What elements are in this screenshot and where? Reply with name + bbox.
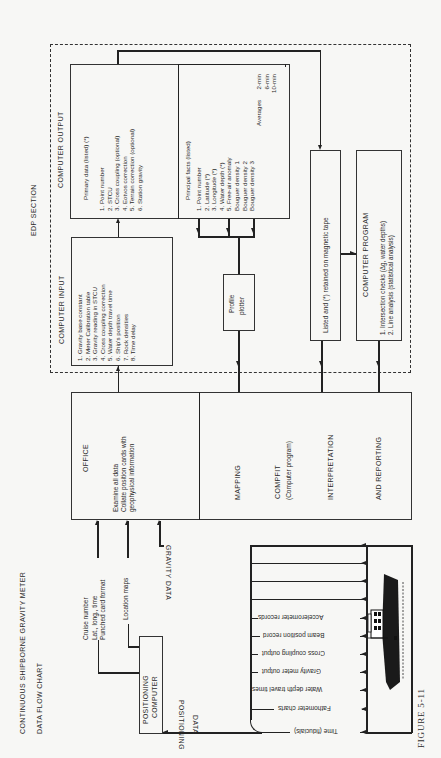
profile-plotter-line2: plotter bbox=[238, 297, 246, 315]
arrow-left-icon bbox=[361, 670, 366, 674]
locmaps-to-office bbox=[127, 521, 129, 558]
positioning-computer-line2: COMPUTER bbox=[151, 676, 159, 718]
record-cross-coupling: Cross coupling output bbox=[250, 651, 366, 659]
arrow-up-icon bbox=[157, 520, 161, 525]
average-6min: 6-min bbox=[263, 74, 271, 98]
principal-item: Bouguer density 3 bbox=[248, 157, 256, 211]
input-item: 1. Gravity base constant bbox=[76, 284, 84, 361]
sensor-line bbox=[250, 599, 366, 600]
record-line bbox=[250, 654, 258, 655]
record-line bbox=[250, 709, 274, 710]
positioning-input: Punched card format bbox=[99, 580, 108, 640]
arrow-left-icon bbox=[361, 597, 366, 601]
averages-bracket-top bbox=[178, 64, 240, 65]
computer-output-heading: COMPUTER OUTPUT bbox=[57, 111, 65, 188]
arrow-up-icon bbox=[125, 520, 129, 525]
arrow-left-icon bbox=[361, 707, 366, 711]
input-item: 7. Rock densities bbox=[122, 284, 130, 361]
program-to-office bbox=[378, 341, 380, 392]
record-line bbox=[250, 618, 258, 619]
primary-item: 6. Station gravity bbox=[136, 129, 144, 211]
arrow-left-icon bbox=[361, 634, 366, 638]
input-item: 8. Time delay bbox=[129, 284, 137, 361]
arrow-left-icon bbox=[361, 561, 366, 565]
arrow-down-icon bbox=[319, 361, 323, 366]
input-item: 3. Gravity reading in STCU bbox=[91, 284, 99, 361]
output-to-tape-line-v1 bbox=[117, 50, 119, 64]
arrow-left-icon bbox=[361, 688, 366, 692]
mapping-label: MAPPING bbox=[234, 465, 242, 500]
principal-item: Bouguer density 2 bbox=[241, 157, 249, 211]
record-gravity-meter: Gravity meter output bbox=[250, 669, 366, 677]
arrow-up-icon bbox=[95, 520, 99, 525]
average-10min: 10-min bbox=[270, 74, 278, 98]
input-item: 5. Water depth travel time bbox=[106, 284, 114, 361]
sensor-line bbox=[250, 563, 366, 564]
gravitydata-hook bbox=[159, 545, 164, 547]
record-label: Accelerometer records bbox=[258, 614, 323, 621]
record-line bbox=[264, 732, 290, 733]
program-item: 2. Line analysis (statistical analysis) bbox=[387, 221, 395, 335]
principal-item: Bouguer density 1 bbox=[233, 157, 241, 211]
principal-item: 2. Latitude (*) bbox=[203, 157, 211, 211]
positioning-data-label-positioning: POSITIONING bbox=[177, 700, 185, 750]
input-to-output-line bbox=[118, 222, 120, 237]
averages-list: 2-min 6-min 10-min bbox=[255, 74, 278, 98]
record-line bbox=[250, 672, 258, 673]
computer-input-list: 1. Gravity base constant 2. Meter Calibr… bbox=[76, 284, 137, 361]
positioning-computer-line1: POSITIONING bbox=[142, 675, 150, 724]
arrow-down-icon bbox=[236, 361, 240, 366]
positioning-input: Lat., long., time bbox=[91, 580, 100, 640]
office-divider bbox=[199, 392, 200, 520]
computer-program-heading: COMPUTER PROGRAM bbox=[362, 212, 370, 297]
primary-item: 2. STCU bbox=[106, 129, 114, 211]
principal-item: 4. Water depth (*) bbox=[218, 157, 226, 211]
averages-bracket-bottom bbox=[285, 64, 286, 67]
record-label: Water depth travel times bbox=[252, 686, 322, 693]
arrow-left-icon bbox=[163, 730, 168, 734]
positioning-input: Cruise number bbox=[82, 580, 91, 640]
principal-item: 3. Longitude (*) bbox=[210, 157, 218, 211]
arrow-down-icon bbox=[226, 228, 230, 233]
input-item: 6. Ship's position bbox=[114, 284, 122, 361]
office-line: Examine all data bbox=[112, 436, 120, 512]
arrow-left-icon bbox=[361, 730, 366, 734]
record-label: Cross coupling output bbox=[262, 650, 325, 657]
primary-item: 4. Eotvos correction bbox=[121, 129, 129, 211]
figure-title-line2: DATA FLOW CHART bbox=[36, 663, 44, 734]
principal-item: 1. Point number bbox=[195, 157, 203, 211]
ship-frame-top bbox=[250, 545, 412, 547]
average-2min: 2-min bbox=[255, 74, 263, 98]
poscomp-to-latlong-h bbox=[98, 672, 139, 674]
averages-label: Averages bbox=[255, 100, 263, 126]
reporting-label: AND REPORTING bbox=[375, 437, 383, 500]
poscomp-to-latlong-v bbox=[98, 640, 100, 673]
compfit-label: COMPFIT bbox=[274, 465, 282, 499]
poscomp-to-locmaps-v bbox=[128, 624, 130, 647]
input-item: 4. Cross coupling correction bbox=[99, 284, 107, 361]
record-accelerometer: Accelerometer records bbox=[250, 615, 366, 623]
arrow-right-icon bbox=[350, 251, 355, 255]
positioning-data-label-data: DATA bbox=[191, 715, 199, 734]
gravity-data-label: GRAVITY DATA bbox=[164, 545, 172, 600]
figure-title-line1: CONTINUOUS SHIPBORNE GRAVITY METER bbox=[19, 572, 27, 734]
principal-facts-heading: Principal facts (listed) bbox=[184, 141, 192, 200]
output-to-tape-line-h bbox=[117, 50, 320, 52]
facts-join-h bbox=[198, 236, 255, 238]
record-label: Fathometer charts bbox=[278, 705, 331, 712]
program-item: 1. Intersection checks (Δg, water depths… bbox=[379, 221, 387, 335]
input-item: 2. Meter Calibration table bbox=[84, 284, 92, 361]
record-time-fiducials: Time (fiducials) bbox=[250, 728, 366, 736]
office-heading: OFFICE bbox=[82, 444, 90, 472]
primary-item: 5. Terrain correction (optional) bbox=[128, 129, 136, 211]
latlong-to-office bbox=[97, 521, 99, 558]
primary-data-heading: Primary data (listed) (*) bbox=[82, 136, 90, 200]
primary-item: 1. Point number bbox=[98, 129, 106, 211]
arrow-down-icon bbox=[376, 361, 380, 366]
sensor-line bbox=[250, 581, 366, 582]
principal-facts-list: 1. Point number 2. Latitude (*) 3. Longi… bbox=[195, 157, 256, 211]
computer-input-heading: COMPUTER INPUT bbox=[58, 275, 66, 344]
arrow-up-icon bbox=[116, 218, 120, 223]
arrow-left-icon bbox=[361, 543, 366, 547]
office-line: geophysical information bbox=[128, 436, 136, 512]
